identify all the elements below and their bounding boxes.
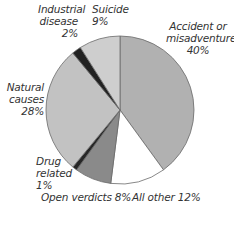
label-line: disease <box>38 15 78 27</box>
label-value: 1% <box>36 179 72 191</box>
label-natural-causes: Natural causes 28% <box>2 81 44 117</box>
label-line: Natural <box>2 81 44 93</box>
label-line: misadventure <box>166 32 230 44</box>
label-industrial-disease: Industrial disease 2% <box>38 3 78 39</box>
label-line: Suicide <box>92 3 129 15</box>
label-line: Industrial <box>38 3 78 15</box>
label-value: 9% <box>92 15 129 27</box>
label-open-verdicts: Open verdicts 8% <box>41 191 131 203</box>
label-all-other: All other 12% <box>132 191 200 203</box>
label-value: 2% <box>38 27 78 39</box>
label-line: causes <box>2 93 44 105</box>
label-drug-related: Drug related 1% <box>36 155 72 191</box>
label-line: Accident or <box>166 20 230 32</box>
label-line: Open verdicts 8% <box>41 191 131 203</box>
label-value: 40% <box>166 44 230 56</box>
label-line: Drug <box>36 155 72 167</box>
label-suicide: Suicide 9% <box>92 3 129 27</box>
label-accident: Accident or misadventure 40% <box>166 20 230 56</box>
label-value: 28% <box>2 105 44 117</box>
label-line: All other 12% <box>132 191 200 203</box>
label-line: related <box>36 167 72 179</box>
